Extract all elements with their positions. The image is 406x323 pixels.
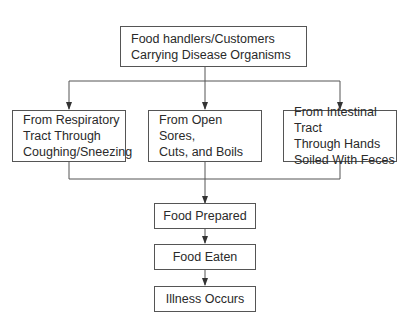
step-box-illness-occurs: Illness Occurs bbox=[154, 286, 256, 312]
step-label: Illness Occurs bbox=[155, 291, 255, 307]
step-box-food-prepared: Food Prepared bbox=[154, 203, 256, 229]
top-box-line-2: Carrying Disease Organisms bbox=[131, 47, 306, 63]
source-box-open-sores: From Open Sores, Cuts, and Boils bbox=[148, 110, 262, 162]
source-line: Coughing/Sneezing bbox=[23, 144, 125, 160]
step-label: Food Eaten bbox=[155, 249, 255, 265]
source-line: Cuts, and Boils bbox=[159, 144, 261, 160]
source-box-respiratory: From Respiratory Tract Through Coughing/… bbox=[12, 110, 126, 162]
step-box-food-eaten: Food Eaten bbox=[154, 244, 256, 270]
top-box-line-1: Food handlers/Customers bbox=[131, 31, 306, 47]
source-line: Through Hands bbox=[294, 136, 396, 152]
top-box-food-handlers: Food handlers/Customers Carrying Disease… bbox=[120, 26, 307, 67]
source-line: From Open Sores, bbox=[159, 112, 261, 144]
source-line: From Respiratory bbox=[23, 112, 125, 128]
source-line: Tract Through bbox=[23, 128, 125, 144]
source-box-intestinal: From Intestinal Tract Through Hands Soil… bbox=[283, 110, 397, 162]
step-label: Food Prepared bbox=[155, 208, 255, 224]
source-line: Soiled With Feces bbox=[294, 152, 396, 168]
source-line: From Intestinal Tract bbox=[294, 104, 396, 136]
